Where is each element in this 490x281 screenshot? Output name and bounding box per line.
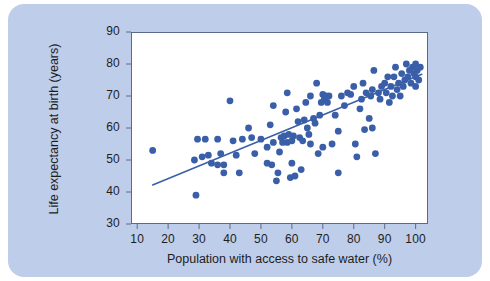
scatter-point (202, 136, 209, 143)
scatter-point (398, 70, 405, 77)
scatter-point (214, 136, 221, 143)
y-tick-label: 40 (94, 184, 120, 198)
scatter-point (366, 115, 373, 122)
scatter-point (326, 93, 333, 100)
scatter-point (372, 150, 379, 157)
scatter-point (315, 150, 322, 157)
scatter-point (199, 153, 206, 160)
scatter-point (335, 169, 342, 176)
scatter-point (384, 73, 391, 80)
scatter-point (236, 169, 243, 176)
scatter-point (369, 125, 376, 132)
y-axis-title: Life expectancy at birth (years) (47, 14, 61, 244)
figure-container: 30405060708090 102030405060708090100 Lif… (0, 0, 490, 281)
scatter-point (220, 169, 227, 176)
x-tick-label: 80 (339, 232, 369, 246)
scatter-point (332, 112, 339, 119)
scatter-point (319, 144, 326, 151)
y-axis-ticks (126, 32, 131, 224)
scatter-point (313, 80, 320, 87)
scatter-point (264, 144, 271, 151)
scatter-point (369, 86, 376, 93)
scatter-point (389, 93, 396, 100)
scatter-point (403, 61, 410, 68)
scatter-point (149, 147, 156, 154)
scatter-point (270, 102, 277, 109)
x-tick-label: 30 (184, 232, 214, 246)
scatter-point (275, 169, 282, 176)
scatter-point (386, 99, 393, 106)
scatter-point (307, 141, 314, 148)
scatter-point (357, 105, 364, 112)
scatter-point (400, 83, 407, 90)
scatter-point (338, 93, 345, 100)
scatter-point (273, 177, 280, 184)
scatter-point (392, 64, 399, 71)
scatter-point (361, 126, 368, 133)
y-tick-label: 30 (94, 216, 120, 230)
scatter-point (292, 173, 299, 180)
scatter-point (282, 109, 289, 116)
scatter-point (304, 125, 311, 132)
x-tick-label: 40 (215, 232, 245, 246)
scatter-point (239, 136, 246, 143)
scatter-point (214, 161, 221, 168)
x-axis-ticks (137, 224, 415, 229)
y-tick-label: 70 (94, 88, 120, 102)
scatter-point (360, 80, 367, 87)
scatter-point (312, 120, 319, 127)
scatter-point (276, 149, 283, 156)
scatter-point (288, 160, 295, 167)
scatter-point (302, 99, 309, 106)
scatter-point (251, 150, 258, 157)
scatter-point (412, 83, 419, 90)
y-tick-label: 80 (94, 56, 120, 70)
scatter-point (233, 152, 240, 159)
x-tick-label: 50 (246, 232, 276, 246)
scatter-point (193, 192, 200, 199)
scatter-point (370, 67, 377, 74)
scatter-point (230, 137, 237, 144)
scatter-point (353, 153, 360, 160)
scatter-point (248, 134, 255, 141)
y-tick-label: 90 (94, 24, 120, 38)
scatter-point (245, 125, 252, 132)
scatter-point (352, 141, 359, 148)
scatter-point (267, 121, 274, 128)
x-tick-label: 20 (153, 232, 183, 246)
scatter-point (381, 80, 388, 87)
scatter-point (191, 157, 198, 164)
scatter-point (347, 91, 354, 98)
scatter-point (324, 99, 331, 106)
x-tick-label: 90 (370, 232, 400, 246)
scatter-point (298, 166, 305, 173)
scatter-point (415, 77, 422, 84)
scatter-point (397, 93, 404, 100)
scatter-point (264, 160, 271, 167)
scatter-point (335, 128, 342, 135)
scatter-point (305, 131, 312, 138)
scatter-point (194, 136, 201, 143)
scatter-point (350, 83, 357, 90)
x-tick-label: 10 (122, 232, 152, 246)
scatter-point (417, 64, 424, 71)
y-tick-label: 60 (94, 120, 120, 134)
scatter-point (284, 89, 291, 96)
scatter-point (290, 133, 297, 140)
scatter-point (227, 97, 234, 104)
scatter-point (329, 141, 336, 148)
x-tick-label: 60 (277, 232, 307, 246)
x-axis-title: Population with access to safe water (%) (131, 252, 428, 266)
x-tick-label: 100 (401, 232, 431, 246)
scatter-point (394, 86, 401, 93)
y-tick-label: 50 (94, 152, 120, 166)
x-tick-label: 70 (308, 232, 338, 246)
scatter-point (307, 93, 314, 100)
scatter-point (293, 105, 300, 112)
scatter-point (270, 139, 277, 146)
scatter-point (299, 137, 306, 144)
scatter-point (377, 96, 384, 103)
scatter-point (391, 73, 398, 80)
scatter-point (220, 161, 227, 168)
scatter-point (205, 152, 212, 159)
